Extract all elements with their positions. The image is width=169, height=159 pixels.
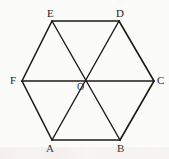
vertex-label-D: D [116,8,124,19]
hexagon-diagram [0,0,169,159]
edge-C-D [119,21,154,81]
vertex-label-A: A [46,143,54,154]
hexagon-figure: E D F C A B O [0,0,169,159]
edge-B-C [120,81,154,140]
edge-E-F [22,21,52,81]
vertex-label-E: E [47,8,54,19]
center-label-O: O [77,82,84,92]
vertex-label-F: F [10,75,16,86]
hexagon-diagonals [22,21,154,140]
vertex-label-C: C [157,75,164,86]
vertex-label-B: B [117,143,124,154]
edge-F-A [22,81,52,140]
